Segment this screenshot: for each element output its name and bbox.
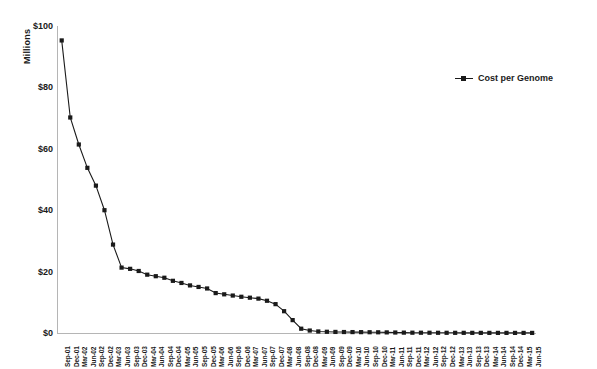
x-tick-label: Mar-04 (150, 335, 157, 367)
data-point-marker (171, 279, 175, 283)
data-point-marker (145, 273, 149, 277)
y-tick-label: $40 (7, 205, 53, 215)
data-point-marker (179, 281, 183, 285)
x-tick-label: Sep-09 (338, 335, 345, 367)
x-tick-label: Mar-07 (252, 335, 259, 367)
data-point-marker (299, 327, 303, 331)
data-point-marker (60, 38, 64, 42)
x-tick-label: Jun-11 (398, 335, 405, 367)
x-tick-label: Sep-14 (509, 335, 516, 367)
x-tick-label: Dec-01 (73, 335, 80, 367)
data-point-marker (196, 285, 200, 289)
x-tick-label: Sep-03 (133, 335, 140, 367)
x-tick-label: Dec-05 (210, 335, 217, 367)
x-tick-label: Dec-10 (381, 335, 388, 367)
x-tick-label: Sep-11 (406, 335, 413, 367)
data-point-marker (77, 142, 81, 146)
cost-per-genome-chart: Millions $0$20$40$60$80$100 Sep-01Dec-01… (0, 0, 597, 369)
data-point-marker (68, 115, 72, 119)
x-tick-label: Dec-09 (346, 335, 353, 367)
x-tick-label: Jun-14 (500, 335, 507, 367)
x-tick-label: Sep-04 (167, 335, 174, 367)
x-tick-label: Dec-07 (278, 335, 285, 367)
x-tick-label: Mar-06 (218, 335, 225, 367)
data-point-marker (188, 283, 192, 287)
x-tick-label: Dec-11 (415, 335, 422, 367)
x-tick-label: Sep-06 (235, 335, 242, 367)
data-point-marker (222, 292, 226, 296)
x-tick-label: Dec-12 (449, 335, 456, 367)
data-point-marker (111, 242, 115, 246)
x-tick-label: Sep-10 (372, 335, 379, 367)
data-point-marker (256, 297, 260, 301)
y-tick-label: $100 (7, 21, 53, 31)
x-tick-label: Sep-13 (475, 335, 482, 367)
x-tick-label: Dec-06 (244, 335, 251, 367)
y-tick-label: $20 (7, 267, 53, 277)
x-tick-label: Mar-11 (389, 335, 396, 367)
data-point-marker (231, 293, 235, 297)
data-point-marker (248, 296, 252, 300)
x-tick-label: Mar-10 (355, 335, 362, 367)
x-tick-label: Sep-02 (98, 335, 105, 367)
x-tick-label: Dec-13 (483, 335, 490, 367)
data-point-marker (282, 309, 286, 313)
data-point-marker (205, 286, 209, 290)
data-point-marker (137, 269, 141, 273)
series-line (62, 40, 532, 332)
x-tick-label: Dec-03 (141, 335, 148, 367)
data-point-marker (316, 329, 320, 333)
data-point-marker (85, 166, 89, 170)
x-tick-label: Mar-02 (81, 335, 88, 367)
data-point-marker (273, 302, 277, 306)
x-tick-label: Jun-06 (227, 335, 234, 367)
data-point-marker (128, 267, 132, 271)
y-tick-label: $0 (7, 328, 53, 338)
x-tick-label: Dec-04 (175, 335, 182, 367)
x-tick-label: Jun-03 (124, 335, 131, 367)
data-point-marker (393, 330, 397, 334)
legend-label: Cost per Genome (478, 73, 553, 83)
data-point-marker (102, 208, 106, 212)
x-tick-label: Jun-02 (90, 335, 97, 367)
x-tick-label: Dec-14 (517, 335, 524, 367)
x-tick-label: Sep-01 (64, 335, 71, 367)
x-tick-label: Sep-05 (201, 335, 208, 367)
data-point-marker (239, 295, 243, 299)
data-point-marker (359, 330, 363, 334)
y-tick-label: $80 (7, 82, 53, 92)
x-tick-label: Mar-14 (492, 335, 499, 367)
data-point-marker (162, 276, 166, 280)
data-point-marker (342, 330, 346, 334)
x-tick-label: Mar-08 (286, 335, 293, 367)
data-point-marker (376, 330, 380, 334)
data-point-marker (325, 330, 329, 334)
legend-marker-icon (455, 74, 473, 83)
y-tick-label: $60 (7, 144, 53, 154)
data-point-marker (94, 184, 98, 188)
x-tick-label: Jun-10 (363, 335, 370, 367)
x-tick-label: Jun-08 (295, 335, 302, 367)
data-point-marker (291, 318, 295, 322)
x-tick-label: Dec-08 (312, 335, 319, 367)
data-point-marker (385, 330, 389, 334)
x-tick-label: Jun-15 (535, 335, 542, 367)
x-tick-label: Jun-04 (158, 335, 165, 367)
data-point-marker (350, 330, 354, 334)
x-tick-label: Sep-08 (304, 335, 311, 367)
x-tick-label: Mar-05 (184, 335, 191, 367)
x-tick-label: Jun-13 (466, 335, 473, 367)
x-tick-label: Mar-03 (115, 335, 122, 367)
x-tick-label: Mar-12 (423, 335, 430, 367)
x-tick-label: Jun-07 (261, 335, 268, 367)
chart-legend: Cost per Genome (455, 73, 553, 83)
data-point-marker (368, 330, 372, 334)
data-point-marker (154, 274, 158, 278)
data-point-marker (214, 291, 218, 295)
data-point-marker (333, 330, 337, 334)
y-axis-tick-labels: $0$20$40$60$80$100 (0, 0, 53, 369)
x-tick-label: Sep-07 (269, 335, 276, 367)
data-point-marker (265, 299, 269, 303)
x-tick-label: Jun-05 (192, 335, 199, 367)
x-tick-label: Jun-09 (329, 335, 336, 367)
